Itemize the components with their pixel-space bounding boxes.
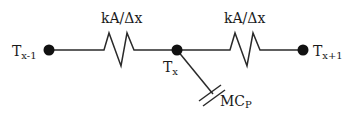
node-right — [298, 45, 309, 56]
resistor-r1 — [49, 33, 177, 66]
node-center-label: Tx — [163, 59, 178, 77]
node-center — [172, 45, 183, 56]
capacitor-lead — [177, 50, 213, 94]
thermal-network-diagram: kA/Δx kA/Δx Tx-1 Tx Tx+1 MCP — [0, 0, 352, 114]
resistor-r2 — [177, 33, 303, 66]
resistor-r1-label: kA/Δx — [101, 10, 142, 26]
resistor-r2-label: kA/Δx — [224, 10, 265, 26]
node-right-label: Tx+1 — [313, 43, 343, 61]
capacitor-plate-1 — [199, 85, 221, 101]
node-left-label: Tx-1 — [12, 43, 37, 61]
capacitor-label: MCP — [220, 93, 252, 110]
node-left — [44, 45, 55, 56]
